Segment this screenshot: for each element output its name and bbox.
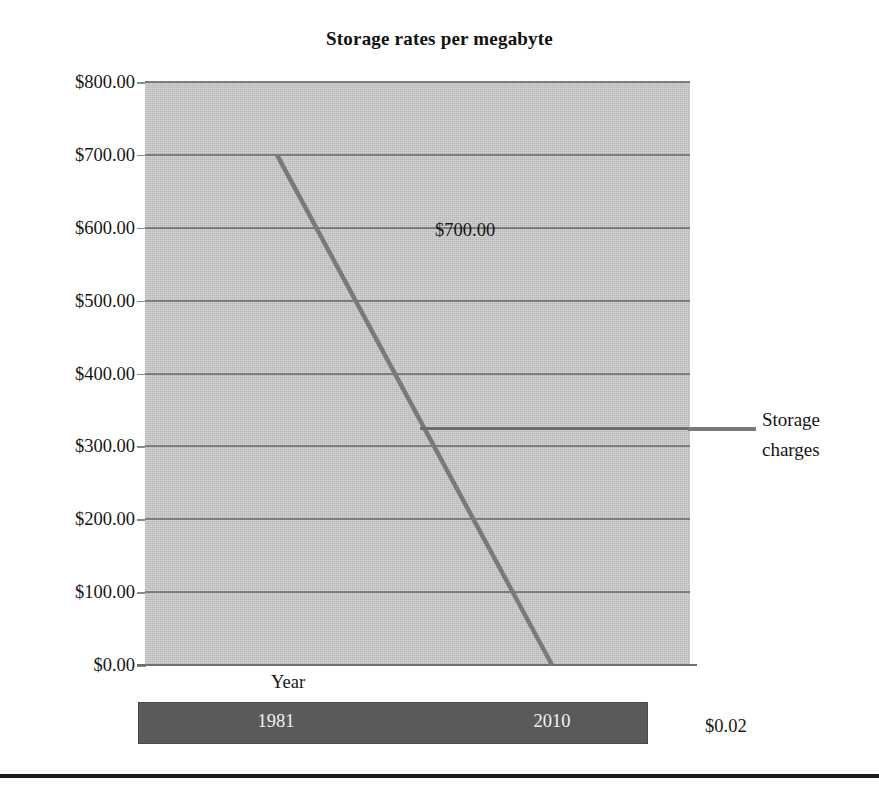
data-label-start: $700.00	[435, 220, 495, 241]
x-axis-tick-1981: 1981	[231, 711, 321, 732]
legend-label-storage-charges: Storage charges	[762, 405, 872, 465]
chart-title: Storage rates per megabyte	[0, 28, 879, 50]
legend-label-line-1: Storage	[762, 405, 872, 435]
plot-area: $700.00 $0.02	[145, 82, 690, 665]
y-axis-tick-label-100: $100.00	[27, 582, 135, 603]
data-label-end: $0.02	[705, 716, 747, 737]
series-storage-charges	[145, 82, 690, 665]
bottom-divider	[0, 774, 879, 778]
x-axis-title: Year	[238, 672, 338, 693]
y-axis-tick-label-600: $600.00	[27, 217, 135, 238]
y-axis-tick-label-400: $400.00	[27, 363, 135, 384]
y-axis-tick-label-700: $700.00	[27, 144, 135, 165]
legend-swatch-storage-charges	[688, 427, 756, 431]
x-axis-band: 1981 2010	[138, 702, 648, 744]
y-axis-labels: $800.00$700.00$600.00$500.00$400.00$300.…	[20, 82, 135, 665]
y-axis-tick-label-200: $200.00	[27, 509, 135, 530]
y-axis-tick-label-800: $800.00	[27, 72, 135, 93]
chart-figure: Storage rates per megabyte $800.00$700.0…	[0, 0, 879, 794]
y-axis-tick-label-300: $300.00	[27, 436, 135, 457]
x-axis-tick-2010: 2010	[507, 711, 597, 732]
legend-label-line-2: charges	[762, 435, 872, 465]
y-axis-tick-label-500: $500.00	[27, 290, 135, 311]
y-axis-tick-label-0: $0.00	[27, 655, 135, 676]
legend-leader-line	[420, 427, 690, 430]
